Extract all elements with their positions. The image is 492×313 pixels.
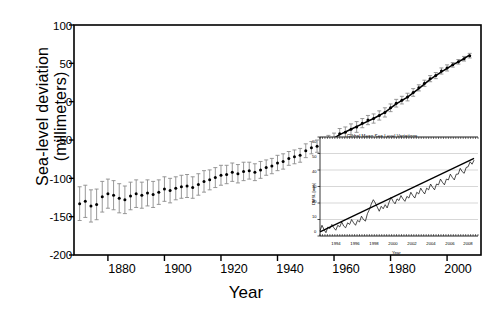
plot-canvas — [0, 0, 492, 313]
sea-level-figure: Sea-level deviation (millimeters) 100 50… — [0, 0, 492, 313]
inset-plot-group — [318, 137, 479, 236]
